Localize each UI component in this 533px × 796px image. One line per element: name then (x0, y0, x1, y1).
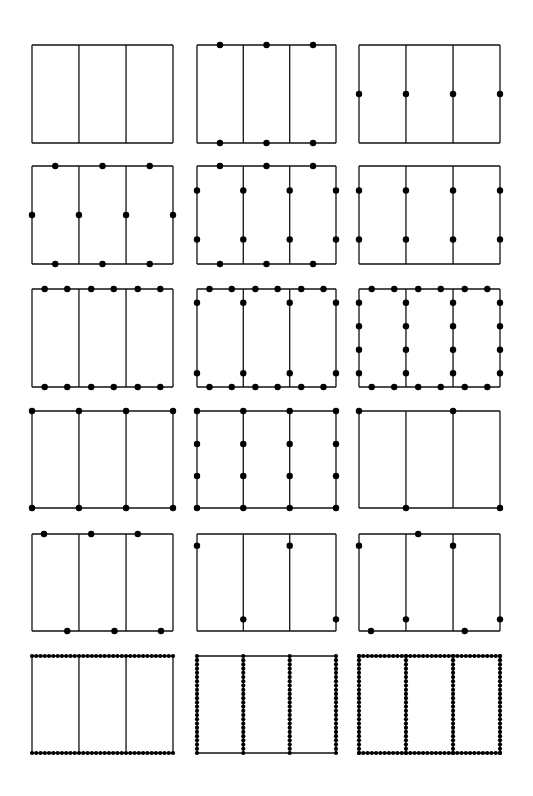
dense-dot-marker (90, 654, 94, 658)
dense-dot-marker (141, 751, 145, 755)
dense-dot-marker (241, 742, 245, 746)
dense-dot-marker (73, 654, 77, 658)
panel-r4c2 (191, 405, 342, 514)
dot-marker (403, 370, 409, 376)
dense-dot-marker (451, 709, 455, 713)
dot-marker (252, 384, 258, 390)
dense-dot-marker (357, 747, 361, 751)
dense-dot-marker (395, 654, 399, 658)
dot-marker (263, 261, 269, 267)
dense-dot-marker (404, 692, 408, 696)
divided-rectangle (195, 654, 338, 755)
dense-dot-marker (472, 751, 476, 755)
dense-dot-marker (334, 683, 338, 687)
dense-dot-marker (241, 692, 245, 696)
dense-dot-marker (498, 721, 502, 725)
dot-marker (240, 300, 246, 306)
dense-dot-marker (195, 747, 199, 751)
dense-dot-marker (404, 717, 408, 721)
panel-r2c3 (353, 160, 506, 270)
dot-marker (310, 163, 316, 169)
dot-marker (415, 286, 421, 292)
dense-dot-marker (195, 742, 199, 746)
dense-dot-marker (73, 751, 77, 755)
dense-dot-marker (485, 654, 489, 658)
dense-dot-marker (489, 654, 493, 658)
dense-dot-marker (195, 696, 199, 700)
dense-dot-marker (288, 692, 292, 696)
dense-dot-marker (241, 667, 245, 671)
dense-dot-marker (162, 654, 166, 658)
dense-dot-marker (241, 726, 245, 730)
dense-dot-marker (357, 679, 361, 683)
dense-dot-marker (195, 692, 199, 696)
dot-marker (76, 505, 82, 511)
dense-dot-marker (404, 742, 408, 746)
dense-dot-marker (357, 742, 361, 746)
dot-marker (356, 323, 362, 329)
dense-dot-marker (404, 662, 408, 666)
dot-marker (450, 236, 456, 242)
dense-dot-marker (417, 654, 421, 658)
dense-dot-marker (56, 654, 60, 658)
dot-marker (333, 187, 339, 193)
dot-marker (274, 384, 280, 390)
dense-dot-marker (241, 721, 245, 725)
dense-dot-marker (195, 726, 199, 730)
dense-dot-marker (425, 751, 429, 755)
dense-dot-marker (30, 654, 34, 658)
dot-marker (157, 286, 163, 292)
dense-dot-marker (90, 751, 94, 755)
dense-dot-marker (334, 692, 338, 696)
dot-marker (41, 531, 47, 537)
dense-dot-marker (241, 747, 245, 751)
dense-dot-marker (404, 679, 408, 683)
dense-dot-marker (34, 654, 38, 658)
dense-dot-marker (51, 654, 55, 658)
dense-dot-marker (334, 671, 338, 675)
dense-dot-marker (498, 700, 502, 704)
dense-dot-marker (85, 654, 89, 658)
dense-dot-marker (357, 675, 361, 679)
panel-r1c1 (26, 39, 179, 149)
panel-r4c1 (26, 405, 179, 514)
dense-dot-marker (451, 713, 455, 717)
dense-dot-marker (451, 667, 455, 671)
dot-marker (462, 286, 468, 292)
dense-dot-marker (94, 751, 98, 755)
dense-dot-marker (195, 679, 199, 683)
dot-marker (450, 408, 456, 414)
dense-dot-marker (395, 751, 399, 755)
panel-r2c1 (26, 160, 179, 270)
dot-marker (356, 300, 362, 306)
dense-dot-marker (241, 713, 245, 717)
dense-dot-marker (464, 751, 468, 755)
dense-dot-marker (120, 654, 124, 658)
dense-dot-marker (111, 751, 115, 755)
dense-dot-marker (132, 654, 136, 658)
dense-dot-marker (425, 654, 429, 658)
dense-dot-marker (107, 654, 111, 658)
dense-dot-marker (195, 700, 199, 704)
dot-marker (310, 42, 316, 48)
dense-dot-marker (288, 705, 292, 709)
dense-dot-marker (288, 726, 292, 730)
dense-dot-marker (447, 654, 451, 658)
dot-marker (462, 384, 468, 390)
dot-marker (497, 91, 503, 97)
divided-rectangle (29, 408, 176, 511)
dot-marker (287, 505, 293, 511)
dense-dot-marker (288, 738, 292, 742)
dense-dot-marker (357, 696, 361, 700)
dot-marker (135, 531, 141, 537)
panel-r4c3 (353, 405, 506, 514)
divided-rectangle (356, 531, 503, 634)
dot-marker (88, 384, 94, 390)
dense-dot-marker (370, 751, 374, 755)
dense-dot-marker (288, 742, 292, 746)
dense-dot-marker (459, 654, 463, 658)
dense-dot-marker (404, 700, 408, 704)
dot-marker (252, 286, 258, 292)
dense-dot-marker (481, 751, 485, 755)
dot-marker (111, 384, 117, 390)
